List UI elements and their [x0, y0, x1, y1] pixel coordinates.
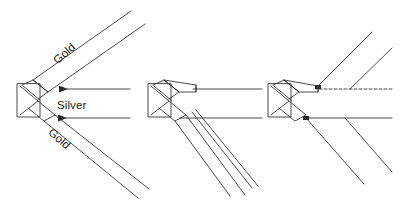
panel-right: [268, 32, 392, 184]
prism-body-left: [17, 80, 55, 121]
ray-pair-up-right: [317, 32, 392, 89]
ray-gold-lower-left: [44, 115, 149, 198]
splitter-face-right: [284, 80, 318, 92]
panel-middle: [148, 80, 262, 196]
deflector-face-middle: [164, 80, 196, 92]
prism-body-middle: [148, 80, 186, 121]
ray-pair-down-right: [306, 118, 392, 184]
ray-gold-upper-left: [33, 11, 145, 92]
ray-fan-middle: [175, 110, 258, 196]
label-silver: Silver: [57, 99, 86, 111]
prism-body-right: [268, 80, 306, 121]
